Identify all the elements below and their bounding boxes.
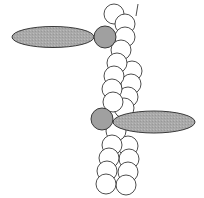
myosin-tail (113, 111, 195, 133)
myosin-motors (12, 26, 195, 133)
diagram-canvas (0, 0, 204, 198)
myosin-tail (12, 27, 94, 48)
actin-subunit (116, 175, 136, 195)
actin-subunit (96, 174, 116, 194)
myosin-bottom (91, 108, 195, 133)
myosin-head (91, 108, 113, 130)
actin-myosin-diagram (0, 0, 204, 198)
strand-end-line (136, 4, 138, 16)
myosin-head (94, 26, 116, 48)
myosin-top (12, 26, 116, 48)
